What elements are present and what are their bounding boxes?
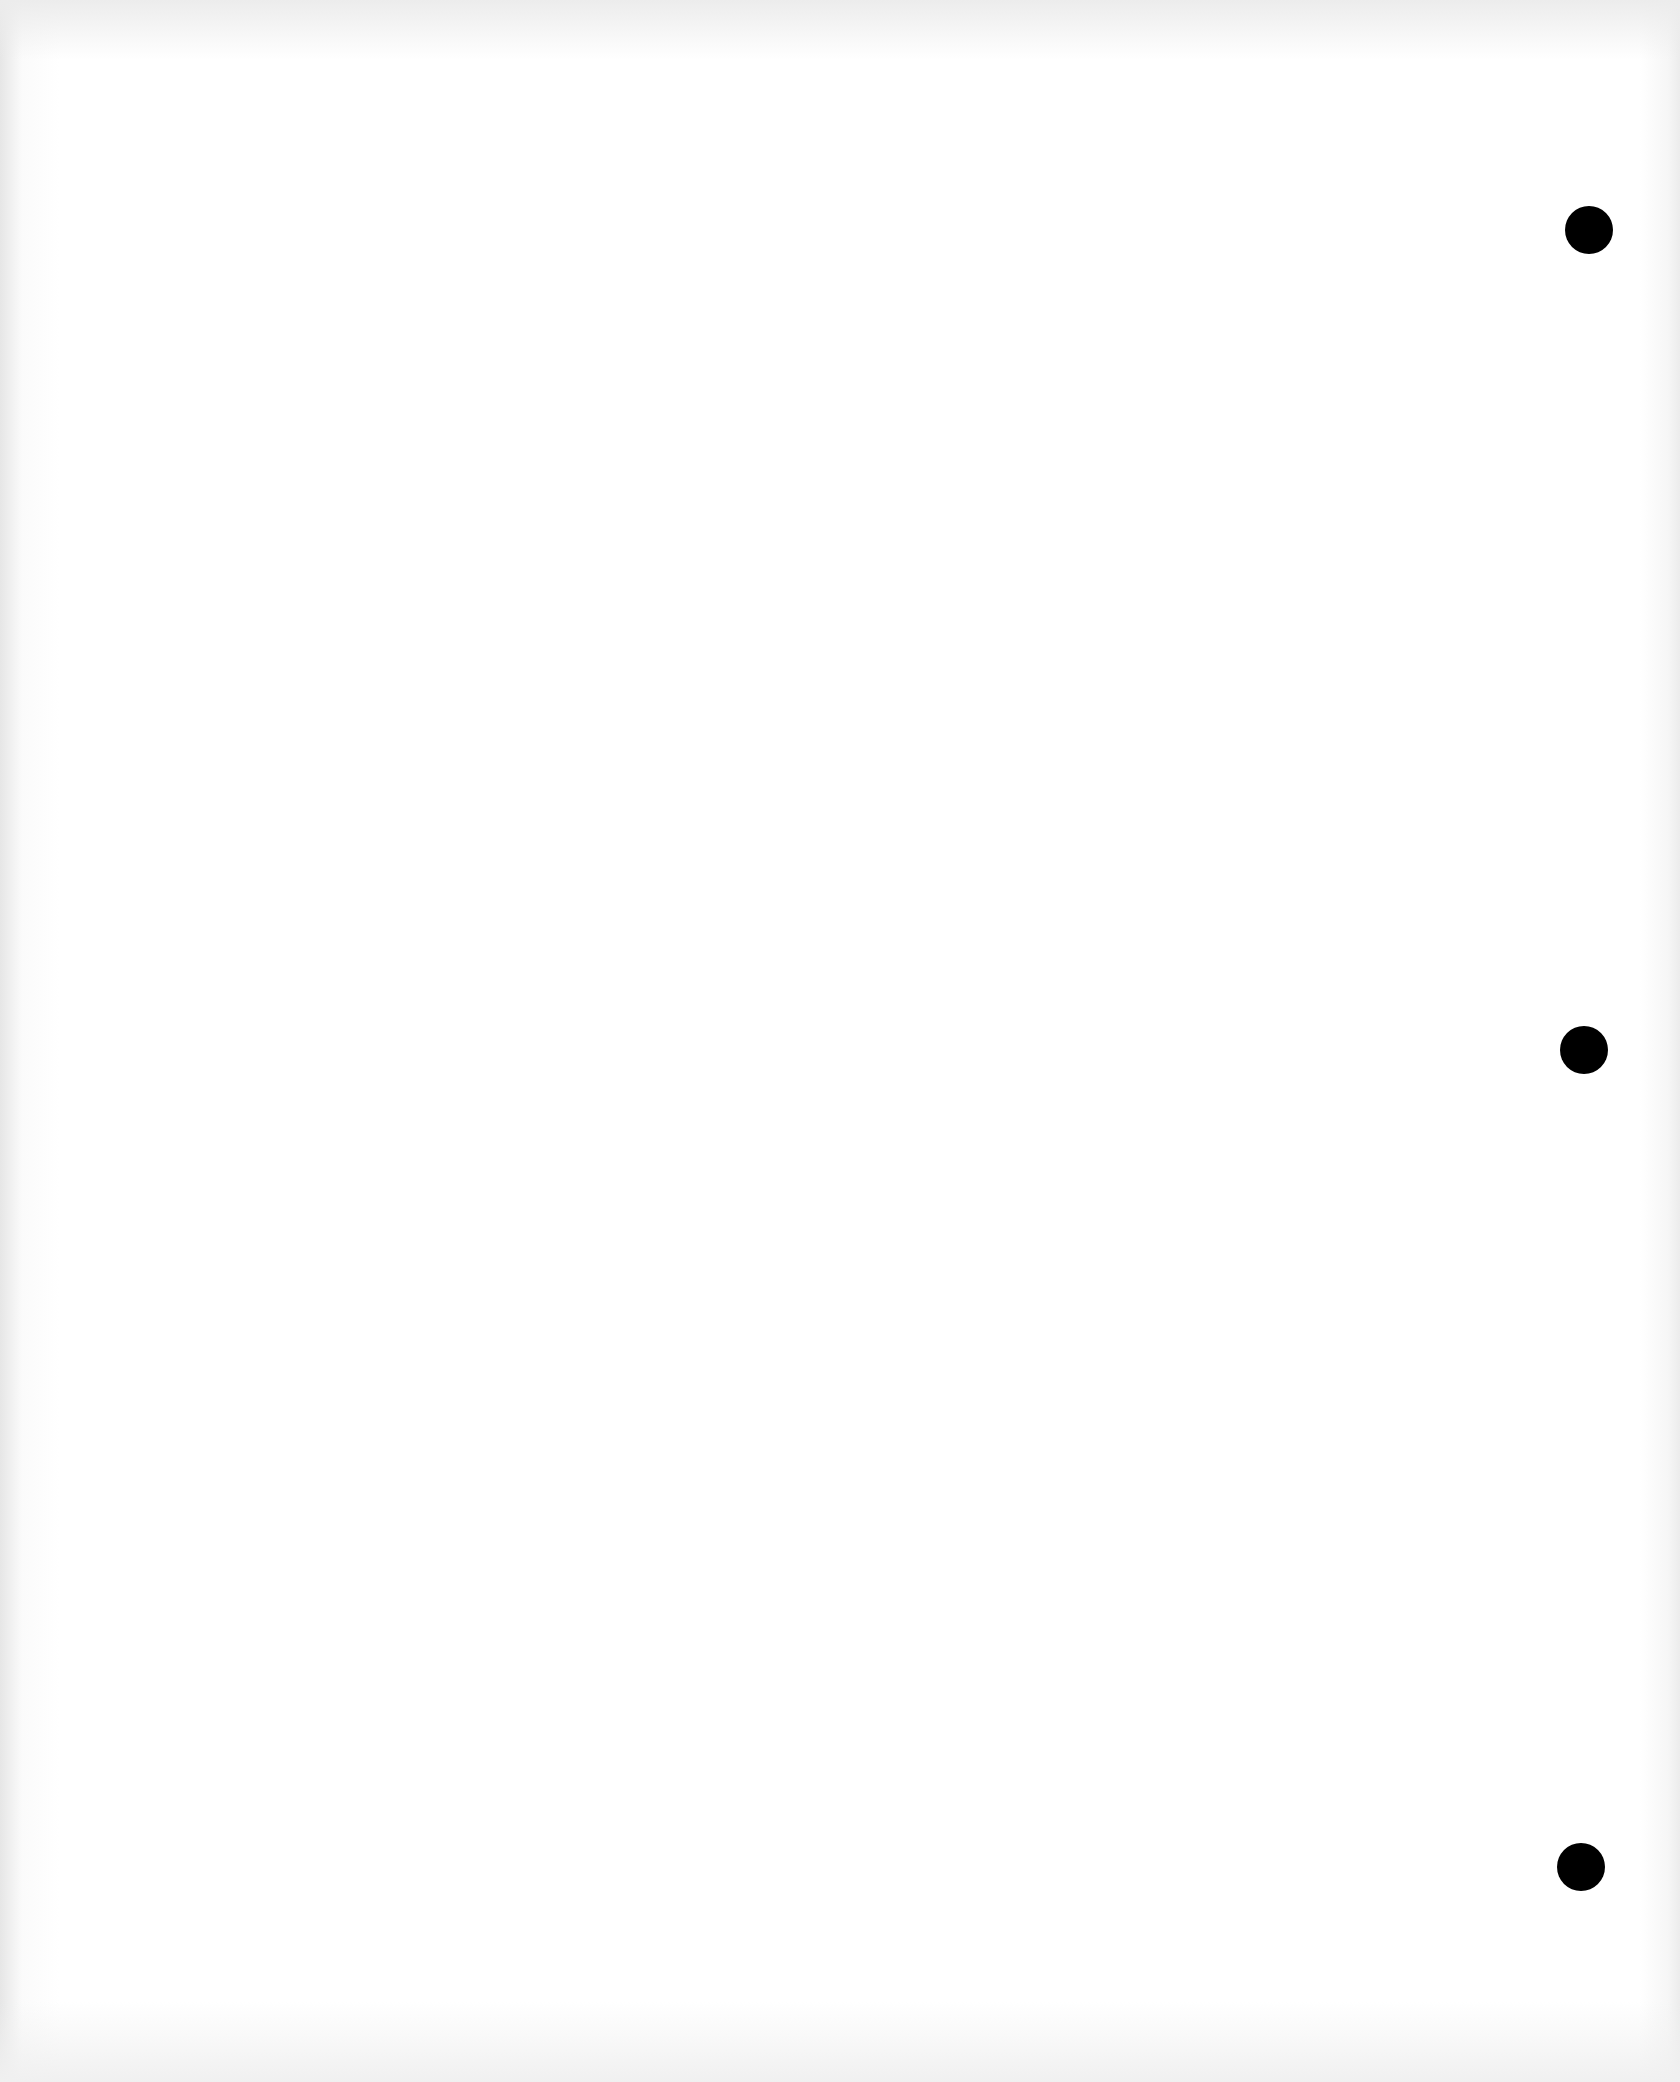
punch-hole-top (1565, 206, 1613, 254)
punch-hole-bottom (1557, 1843, 1605, 1891)
punch-hole-middle (1560, 1026, 1608, 1074)
blank-page (0, 0, 1680, 2082)
